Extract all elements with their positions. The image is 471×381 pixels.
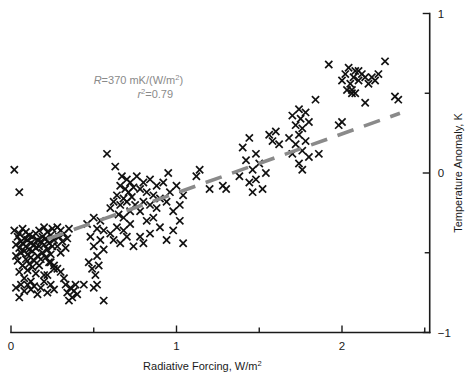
data-point <box>246 179 253 186</box>
data-point <box>170 208 177 215</box>
regression-line <box>47 113 400 239</box>
data-point <box>395 96 402 103</box>
data-point <box>223 185 230 192</box>
data-point <box>16 189 23 196</box>
r-squared-text: r2=0.79 <box>137 86 173 100</box>
y-tick-label: 1 <box>438 8 444 20</box>
data-point <box>100 227 107 234</box>
data-point <box>163 236 170 243</box>
data-point <box>305 153 312 160</box>
data-point <box>90 243 97 250</box>
data-point <box>315 150 322 157</box>
data-point <box>249 189 256 196</box>
data-point <box>289 112 296 119</box>
data-point <box>95 262 102 269</box>
data-point <box>252 176 259 183</box>
data-point <box>136 208 143 215</box>
x-axis-title: Radiative Forcing, W/m2 <box>143 359 261 373</box>
x-tick-label: 0 <box>8 340 14 352</box>
annotation-group: R=370 mK/(W/m2)r2=0.79 <box>94 72 183 100</box>
data-point <box>305 118 312 125</box>
data-point <box>65 225 72 232</box>
data-point <box>146 201 153 208</box>
data-point <box>100 246 107 253</box>
data-point <box>297 115 304 122</box>
y-tick-label: 0 <box>438 167 444 179</box>
y-tick-label: −1 <box>438 327 451 339</box>
scatter-plot-figure: 012−101Radiative Forcing, W/m2Temperatur… <box>0 0 471 381</box>
data-point <box>36 262 43 269</box>
data-point <box>292 122 299 129</box>
plot-canvas: 012−101Radiative Forcing, W/m2Temperatur… <box>0 0 471 381</box>
data-point <box>146 230 153 237</box>
data-point <box>143 189 150 196</box>
data-point <box>44 289 51 296</box>
data-point <box>249 166 256 173</box>
data-point <box>312 96 319 103</box>
data-point <box>150 214 157 221</box>
regression-slope-text: R=370 mK/(W/m2) <box>94 72 183 86</box>
y-axis-title: Temperature Anomaly, K <box>452 113 464 233</box>
data-point <box>338 118 345 125</box>
data-point <box>242 157 249 164</box>
data-point <box>292 141 299 148</box>
data-point <box>156 224 163 231</box>
data-point <box>180 240 187 247</box>
data-point <box>176 201 183 208</box>
data-point <box>272 128 279 135</box>
data-point <box>103 150 110 157</box>
data-point <box>246 134 253 141</box>
data-point <box>262 169 269 176</box>
x-tick-label: 1 <box>173 340 179 352</box>
data-point <box>153 182 160 189</box>
x-tick-label: 2 <box>339 340 345 352</box>
data-point <box>176 217 183 224</box>
data-point <box>285 134 292 141</box>
data-point <box>206 185 213 192</box>
data-point <box>259 185 266 192</box>
axis-labels-group: 012−101Radiative Forcing, W/m2Temperatur… <box>8 8 464 373</box>
data-point <box>295 106 302 113</box>
data-point <box>133 173 140 180</box>
data-point <box>276 141 283 148</box>
data-point <box>153 204 160 211</box>
data-point <box>173 182 180 189</box>
data-point <box>362 99 369 106</box>
data-point <box>117 240 124 247</box>
data-point <box>127 220 134 227</box>
data-point <box>302 109 309 116</box>
data-point <box>160 179 167 186</box>
data-point <box>113 224 120 231</box>
data-point <box>130 243 137 250</box>
data-point <box>239 144 246 151</box>
data-point <box>302 138 309 145</box>
data-point <box>150 192 157 199</box>
data-point <box>165 169 172 176</box>
data-point <box>80 281 87 288</box>
data-point <box>146 176 153 183</box>
data-point <box>97 236 104 243</box>
data-point <box>325 61 332 68</box>
data-point <box>143 217 150 224</box>
data-point <box>170 227 177 234</box>
data-point <box>93 252 100 259</box>
data-point <box>381 58 388 65</box>
data-point <box>90 214 97 221</box>
data-point <box>93 281 100 288</box>
data-point <box>87 233 94 240</box>
data-point <box>112 163 119 170</box>
data-point <box>252 150 259 157</box>
data-point <box>100 297 107 304</box>
data-point <box>11 166 18 173</box>
data-point <box>236 173 243 180</box>
data-point <box>93 225 100 232</box>
data-point <box>16 294 23 301</box>
